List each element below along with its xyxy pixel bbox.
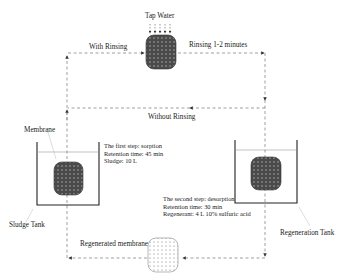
sorption-membrane-icon [54,162,83,195]
sludge-tank-label: Sludge Tank [9,221,45,229]
desorption-step-info: The second step: desorption Retention ti… [163,195,251,218]
with-rinsing-label: With Rinsing [89,43,127,51]
regenerated-membrane-label: Regenerated membrane [80,240,148,248]
sorption-step-line: The first step: sorption [104,142,163,150]
tap-water-arrows [150,24,170,33]
tap-water-label: Tap Water [145,12,174,20]
sludge-tank [26,132,99,222]
desorption-membrane-icon [251,157,281,190]
sorption-retention-line: Retention time: 45 min [104,150,163,158]
sorption-step-info: The first step: sorption Retention time:… [104,142,163,165]
without-rinsing-label: Without Rinsing [148,113,195,121]
desorption-retention-line: Retention time: 30 min [163,203,251,211]
sorption-sludge-line: Sludge: 10 L [104,157,163,165]
regeneration-tank-label: Regeneration Tank [280,229,334,237]
membrane-label: Membrane [24,126,55,134]
desorption-step-line: The second step: desorption [163,195,251,203]
regenerated-membrane-icon [148,238,178,272]
rinsing-membrane-icon [146,35,176,69]
desorption-regenerant-line: Regenerant: 4 L 10% sulfuric acid [163,210,251,218]
rinsing-duration-label: Rinsing 1-2 minutes [189,41,247,49]
